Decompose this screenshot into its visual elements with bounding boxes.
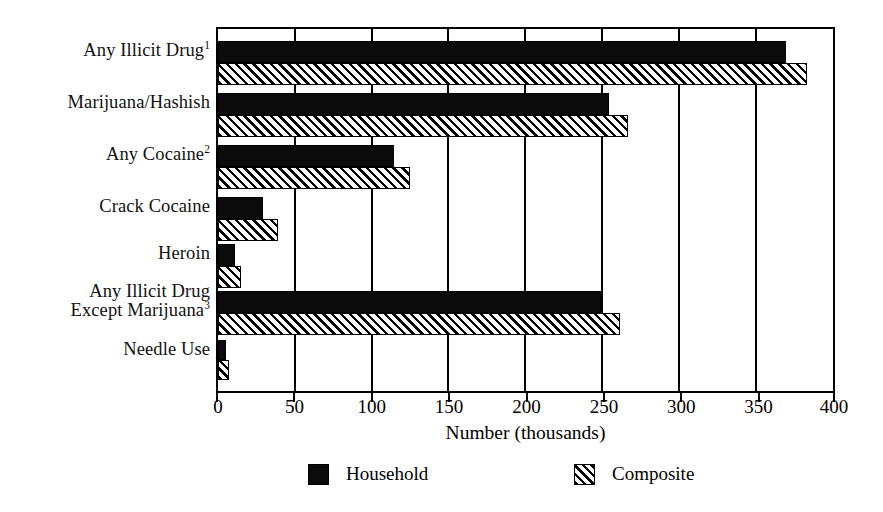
bar-household-any-illicit-drug [218,41,786,63]
category-axis-labels: Any Illicit Drug1 Marijuana/Hashish Any … [0,27,210,393]
bar-group-marijuana-hashish [218,93,833,137]
x-tick-label-50: 50 [285,396,304,418]
x-tick-label-250: 250 [590,396,619,418]
bar-group-heroin [218,244,833,288]
x-axis-tick-labels: 0 50 100 150 200 250 300 350 400 [216,396,835,422]
bar-household-any-illicit-drug-except-marijuana [218,291,601,313]
bar-group-crack-cocaine [218,197,833,241]
legend-item-composite: Composite [574,463,694,485]
bar-household-crack-cocaine [218,197,263,219]
category-label-any-illicit-drug: Any Illicit Drug1 [83,41,210,60]
category-label-needle-use: Needle Use [123,340,210,359]
category-label-any-illicit-drug-except-marijuana: Any Illicit Drug Except Marijuana3 [71,282,210,321]
bar-composite-any-illicit-drug [218,63,807,85]
plot-area [216,27,835,393]
x-tick-label-0: 0 [213,396,223,418]
category-label-any-cocaine: Any Cocaine2 [106,145,210,164]
category-label-text: Any Cocaine [106,144,204,164]
x-tick-label-300: 300 [667,396,696,418]
bar-group-any-illicit-drug [218,41,833,85]
category-label-text: Heroin [158,243,210,263]
horizontal-bar-chart: Any Illicit Drug1 Marijuana/Hashish Any … [0,0,883,512]
x-tick-label-150: 150 [435,396,464,418]
category-label-text: Crack Cocaine [99,196,210,216]
bar-composite-any-illicit-drug-except-marijuana [218,313,620,335]
category-label-text-line1: Any Illicit Drug [89,281,210,301]
chart-legend: Household Composite [216,463,835,497]
bar-household-heroin [218,244,235,266]
footnote-marker: 1 [204,39,210,51]
diagonal-hatch-square-icon [574,464,595,485]
x-axis-title: Number (thousands) [216,422,835,444]
bar-household-any-cocaine [218,145,394,167]
category-label-marijuana-hashish: Marijuana/Hashish [68,93,210,112]
x-tick-label-100: 100 [358,396,387,418]
footnote-marker: 2 [204,143,210,155]
bar-group-needle-use [218,340,833,380]
bar-composite-any-cocaine [218,167,410,189]
bar-group-any-illicit-drug-except-marijuana [218,291,833,335]
category-label-crack-cocaine: Crack Cocaine [99,197,210,216]
bar-composite-needle-use [218,360,229,380]
legend-label-composite: Composite [612,463,694,485]
category-label-heroin: Heroin [158,244,210,263]
x-tick-label-400: 400 [820,396,849,418]
solid-black-square-icon [308,464,329,485]
x-tick-label-350: 350 [744,396,773,418]
category-label-text: Marijuana/Hashish [68,92,210,112]
bar-household-needle-use [218,340,226,360]
category-label-text-line2: Except Marijuana3 [71,301,210,320]
legend-label-household: Household [346,463,428,485]
category-label-text: Any Illicit Drug [83,40,204,60]
bar-group-any-cocaine [218,145,833,189]
bar-composite-crack-cocaine [218,219,278,241]
bar-household-marijuana-hashish [218,93,609,115]
bar-composite-heroin [218,266,241,288]
x-tick-label-200: 200 [512,396,541,418]
category-label-text: Needle Use [123,339,210,359]
footnote-marker: 3 [204,299,210,311]
bar-composite-marijuana-hashish [218,115,628,137]
legend-item-household: Household [308,463,428,485]
